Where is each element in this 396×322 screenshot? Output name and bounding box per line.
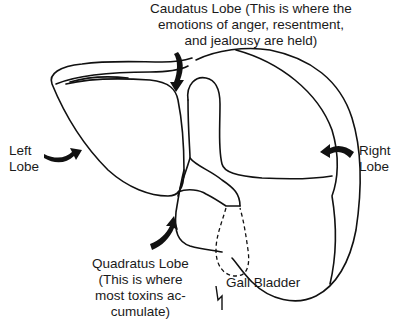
right-lobe-outline	[196, 48, 360, 300]
liver-diagram: Caudatus Lobe (This is where the emotion…	[0, 0, 396, 322]
left-lobe-outline	[51, 58, 192, 196]
caudatus-arrow	[170, 52, 184, 92]
gall-bladder-outline	[216, 208, 249, 276]
right-lobe-label: Right Lobe	[359, 143, 391, 175]
left-lobe-label: Left Lobe	[9, 143, 39, 175]
caudatus-lobe-label: Caudatus Lobe (This is where the emotion…	[150, 1, 352, 49]
gall-bladder-pointer	[216, 286, 222, 310]
quadratus-lobe-label: Quadratus Lobe (This is where most toxin…	[92, 256, 189, 320]
left-lobe-arrow	[44, 148, 82, 162]
quadratus-arrow	[150, 216, 178, 250]
gall-bladder-label: Gall Bladder	[226, 275, 300, 291]
caudatus-lobe-outline	[188, 78, 332, 179]
quadratus-lobe-outline	[176, 170, 240, 252]
